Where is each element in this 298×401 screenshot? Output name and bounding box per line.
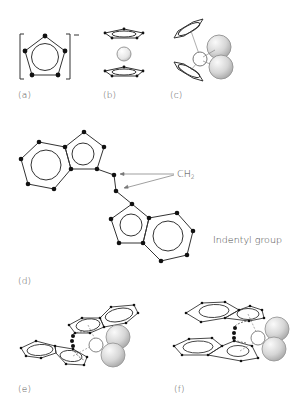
ch2-text: CH: [177, 168, 191, 179]
ligand-sphere-lower: [209, 55, 233, 79]
metal-sphere: [117, 47, 131, 61]
label-panel-b: (b): [103, 90, 116, 100]
bottom-ring-circle: [112, 69, 136, 75]
label-panel-f: (f): [174, 384, 185, 394]
five-ring-circle-2: [120, 214, 142, 236]
ch2-label: CH2: [177, 168, 195, 180]
benzene-circle-2: [153, 221, 183, 251]
five-ring-circle-1: [72, 143, 94, 165]
ligand-sphere-lower: [262, 337, 286, 361]
chemistry-figure: (a) (b) (c) (d) (e) (f) CH2 Indentyl gro…: [0, 0, 298, 401]
ligand-sphere-lower: [101, 343, 125, 367]
panel-b-sandwich: [104, 28, 145, 78]
lower-five-ring: [208, 341, 258, 361]
indenyl-group-label: Indentyl group: [213, 234, 282, 245]
benzene-circle-1: [31, 150, 61, 180]
pentagon-ring: [25, 36, 65, 75]
label-panel-d: (d): [18, 276, 31, 286]
metal-center: [251, 331, 265, 345]
metal-center: [193, 52, 207, 66]
label-panel-e: (e): [18, 384, 31, 394]
top-ring-circle: [112, 31, 136, 37]
aromatic-circle: [32, 44, 59, 71]
figure-canvas: [0, 0, 298, 401]
ch2-arrows: [120, 173, 174, 189]
panel-c-bent-metallocene: [174, 19, 233, 81]
label-panel-a: (a): [18, 90, 31, 100]
metal-center: [89, 338, 103, 352]
panel-a-cyclopentadienyl: [20, 34, 79, 79]
left-bracket: [20, 34, 24, 79]
panel-e-ansa-metallocene: [20, 304, 140, 367]
bond-upper: [191, 31, 199, 54]
five-ring-2: [111, 204, 149, 243]
five-ring-1: [65, 132, 104, 169]
upper-five-ring: [225, 306, 264, 321]
panel-d-bis-indenyl: [19, 130, 196, 264]
right-bracket: [66, 34, 70, 79]
ch2-subscript: 2: [191, 173, 195, 180]
panel-f-ansa-metallocene: [173, 301, 289, 363]
label-panel-c: (c): [170, 90, 183, 100]
